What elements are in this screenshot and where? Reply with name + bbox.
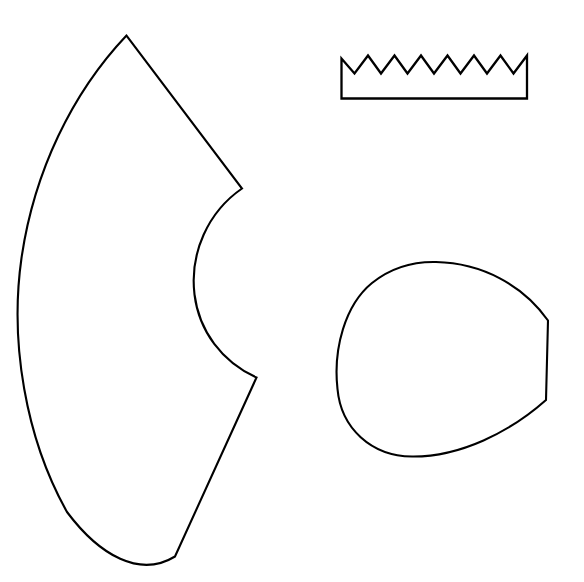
canvas-background	[0, 0, 584, 582]
drawing-canvas	[0, 0, 584, 582]
pattern-shapes-figure	[0, 0, 584, 582]
